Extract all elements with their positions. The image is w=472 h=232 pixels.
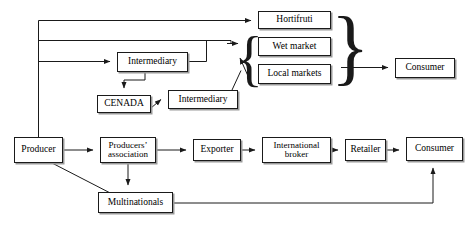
node-intermediary-2[interactable]: Intermediary xyxy=(168,90,238,109)
node-producer[interactable]: Producer xyxy=(14,137,63,163)
node-label-multinationals: Multinationals xyxy=(105,198,166,208)
node-label-exporter: Exporter xyxy=(197,145,236,155)
node-intermediary-1[interactable]: Intermediary xyxy=(117,52,188,72)
node-label-intermediary-2: Intermediary xyxy=(175,95,230,105)
edge-cenada-to-intermediary-2 xyxy=(151,100,161,109)
node-label-producer: Producer xyxy=(18,145,58,155)
node-label-retailer: Retailer xyxy=(347,145,383,155)
node-local-markets[interactable]: Local markets xyxy=(258,64,331,84)
node-international-broker[interactable]: International broker xyxy=(262,137,331,163)
node-label-cenada: CENADA xyxy=(101,99,147,109)
node-label-producers-association: Producers’ association xyxy=(105,141,151,160)
flow-diagram: { } Hortifruti Wet market Local markets … xyxy=(0,0,472,232)
node-label-consumer-top: Consumer xyxy=(402,63,447,73)
node-label-intermediary-1: Intermediary xyxy=(125,57,180,67)
node-consumer-bottom[interactable]: Consumer xyxy=(406,137,463,161)
edge-intermediary1-to-cenada xyxy=(124,72,145,88)
node-consumer-top[interactable]: Consumer xyxy=(395,58,455,78)
node-label-hortifruti: Hortifruti xyxy=(273,15,315,25)
node-retailer[interactable]: Retailer xyxy=(345,139,386,161)
node-label-wet-market: Wet market xyxy=(270,42,320,52)
node-cenada[interactable]: CENADA xyxy=(97,95,151,113)
node-multinationals[interactable]: Multinationals xyxy=(98,192,173,213)
node-exporter[interactable]: Exporter xyxy=(193,139,241,161)
node-label-local-markets: Local markets xyxy=(264,69,324,79)
node-label-consumer-bottom: Consumer xyxy=(412,144,457,154)
edge-multinationals-to-consumer-bottom xyxy=(173,168,433,203)
node-producers-association[interactable]: Producers’ association xyxy=(100,137,156,163)
node-hortifruti[interactable]: Hortifruti xyxy=(258,11,331,29)
right-brace: } xyxy=(331,0,369,96)
edge-intermediary1-to-group xyxy=(188,41,207,62)
node-wet-market[interactable]: Wet market xyxy=(258,37,331,56)
node-label-international-broker: International broker xyxy=(271,141,323,160)
